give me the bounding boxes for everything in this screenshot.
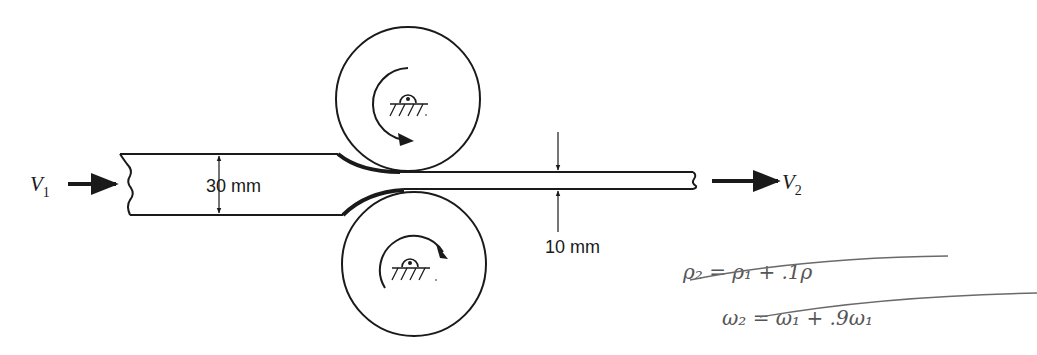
- thickness-dimension-inlet: 30 mm: [206, 156, 261, 213]
- outlet-velocity: V2: [712, 170, 802, 198]
- bearing-support-icon: [390, 95, 428, 116]
- v2-label: V2: [782, 170, 802, 198]
- bearing-support-icon: [392, 259, 437, 281]
- lower-roll: [342, 190, 486, 336]
- outgoing-strip: [400, 172, 696, 189]
- v1-label: V1: [30, 172, 50, 200]
- handwritten-note-1: ρ₂ = ρ₁ + .1ρ: [682, 260, 813, 284]
- broken-edge-left: [120, 154, 133, 215]
- outlet-thickness-label: 10 mm: [545, 237, 600, 257]
- inlet-thickness-label: 30 mm: [206, 176, 261, 196]
- thickness-dimension-outlet: 10 mm: [545, 132, 600, 257]
- inlet-velocity: V1: [30, 172, 116, 200]
- rolling-diagram: V1 30 mm: [0, 0, 1037, 355]
- upper-roll: [336, 27, 480, 172]
- handwritten-note-2: ω₂ = ω₁ + .9ω₁: [722, 306, 873, 330]
- handwritten-notes: ρ₂ = ρ₁ + .1ρ ω₂ = ω₁ + .9ω₁: [682, 256, 1037, 330]
- broken-edge-right: [693, 172, 696, 189]
